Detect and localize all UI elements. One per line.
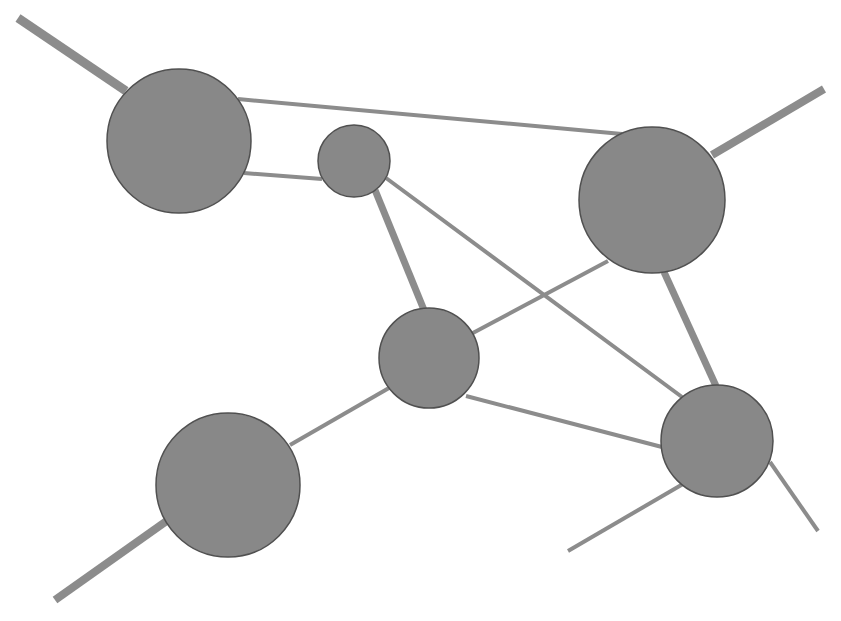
network-diagram bbox=[0, 0, 841, 621]
node-b bbox=[318, 125, 390, 197]
node-a bbox=[107, 69, 251, 213]
node-c bbox=[579, 127, 725, 273]
node-e bbox=[156, 413, 300, 557]
node-d bbox=[379, 308, 479, 408]
node-f bbox=[661, 385, 773, 497]
